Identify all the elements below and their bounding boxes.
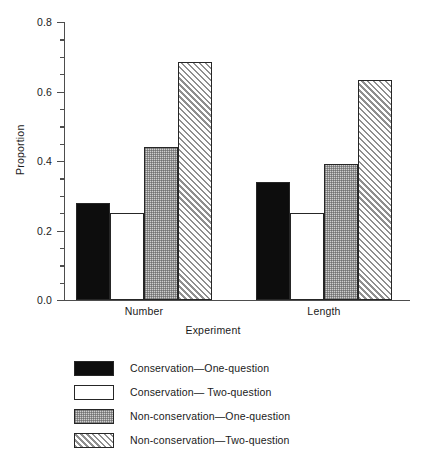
bar (178, 62, 212, 300)
bar-chart-figure: Proportion 0.00.20.40.60.8 NumberLength … (0, 0, 426, 454)
x-axis-label: Experiment (0, 324, 426, 336)
legend-item: Non-conservation—One-question (74, 404, 290, 428)
y-tick-label: 0.8 (0, 16, 52, 28)
x-tick-label: Number (125, 305, 164, 317)
plot-area (64, 22, 409, 300)
y-tick-label: 0.0 (0, 294, 52, 306)
legend-label: Conservation—One-question (130, 362, 269, 374)
y-tick-label: 0.4 (0, 155, 52, 167)
bar (110, 213, 144, 300)
y-tick-major (57, 300, 64, 301)
legend-swatch (74, 361, 114, 376)
legend-label: Non-conservation—Two-question (130, 434, 290, 446)
x-tick-label: Length (307, 305, 340, 317)
y-tick-label: 0.2 (0, 225, 52, 237)
legend-label: Non-conservation—One-question (130, 410, 290, 422)
bar (144, 147, 178, 300)
y-tick-major (57, 92, 64, 93)
bar (256, 182, 290, 300)
y-tick-major (57, 161, 64, 162)
x-axis-line (64, 300, 410, 301)
legend-item: Non-conservation—Two-question (74, 428, 290, 452)
legend-item: Conservation— Two-question (74, 380, 290, 404)
legend-swatch (74, 385, 114, 400)
bar (324, 164, 358, 300)
bar (358, 80, 392, 300)
legend-item: Conservation—One-question (74, 356, 290, 380)
y-tick-major (57, 22, 64, 23)
legend-swatch (74, 409, 114, 424)
bar (290, 213, 324, 300)
chart-legend: Conservation—One-questionConservation— T… (74, 356, 290, 452)
y-axis-label: Proportion (14, 125, 26, 175)
bar (76, 203, 110, 300)
legend-label: Conservation— Two-question (130, 386, 271, 398)
y-tick-label: 0.6 (0, 86, 52, 98)
legend-swatch (74, 433, 114, 448)
y-tick-major (57, 231, 64, 232)
